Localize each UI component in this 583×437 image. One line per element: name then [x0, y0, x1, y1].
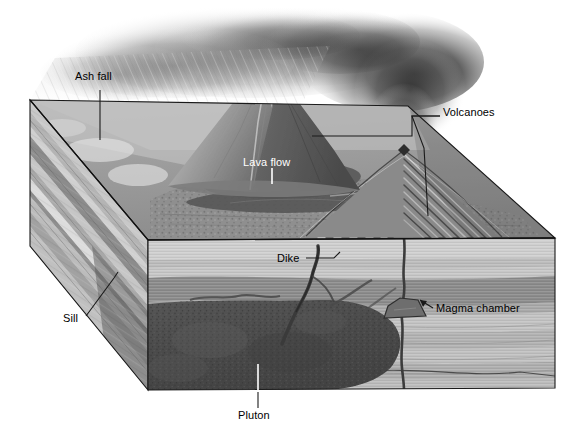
block-diagram-illustration: [0, 0, 583, 437]
label-sill: Sill: [63, 312, 78, 324]
block-front-face: [140, 235, 560, 393]
label-magma-chamber: Magma chamber: [436, 302, 520, 314]
label-volcanoes: Volcanoes: [443, 106, 495, 118]
figure-canvas: Ash fall Volcanoes Lava flow Dike Magma …: [0, 0, 583, 437]
label-ash-fall: Ash fall: [75, 70, 112, 82]
front-face-strata: [140, 235, 560, 393]
label-dike: Dike: [277, 252, 299, 264]
label-pluton: Pluton: [238, 409, 270, 421]
label-lava-flow: Lava flow: [243, 156, 290, 168]
